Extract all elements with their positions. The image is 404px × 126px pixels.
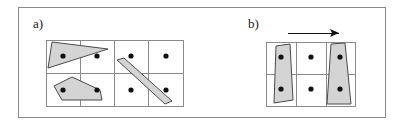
sample-point-a-2 xyxy=(94,53,99,58)
figure-canvas: a)b) xyxy=(0,0,404,126)
sample-point-a-3 xyxy=(128,53,133,58)
sample-point-a-6 xyxy=(94,87,99,92)
figure-container: a)b) xyxy=(0,0,404,126)
sample-point-b-5 xyxy=(308,86,313,91)
sample-point-a-7 xyxy=(128,87,133,92)
left-trapezoid-shape xyxy=(274,44,293,103)
sample-point-b-6 xyxy=(337,86,342,91)
sample-point-a-5 xyxy=(60,87,65,92)
sample-point-a-8 xyxy=(163,87,168,92)
sample-point-a-1 xyxy=(60,53,65,58)
panel-label-a: a) xyxy=(33,16,43,31)
sample-point-b-3 xyxy=(337,54,342,59)
sample-point-b-2 xyxy=(308,54,313,59)
sample-point-a-4 xyxy=(163,53,168,58)
sample-point-b-1 xyxy=(278,54,283,59)
sample-point-b-4 xyxy=(278,86,283,91)
panel-label-b: b) xyxy=(248,16,259,31)
